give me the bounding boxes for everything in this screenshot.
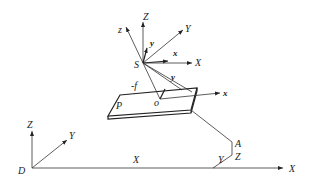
label-Y-sensor: Y [185,23,192,34]
label-D: D [17,165,26,176]
label-S: S [134,59,139,70]
label-Z-ground: Z [27,119,33,130]
label-X-sensor: X [194,57,202,68]
ground-Y-axis [32,140,67,168]
ground-point-projection: A Z [191,110,242,168]
label-P: P [115,100,122,111]
label-Y-offset: Y [218,154,225,165]
label-Z-sensor: Z [143,11,149,22]
label-y-lower: y [170,72,176,82]
projection-ray [143,63,192,92]
label-X-offset: X [132,154,140,165]
plane-y-tick [160,89,165,99]
diagram-canvas: Z z Y y x X S y -f P o x A Z Z Y D X Y X [0,0,309,190]
diagram-svg: Z z Y y x X S y -f P o x A Z Z Y D X Y X [0,0,309,190]
ground-frame: Z Y D X Y X [17,119,296,176]
label-A: A [234,138,242,149]
plane-x-axis [160,93,220,99]
label-z-sensor: z [117,24,122,35]
label-Y-ground: Y [69,130,76,141]
image-plane: P o x [108,88,228,119]
projection-path-to-A [191,110,232,168]
label-x-plane: x [222,88,228,98]
label-x-upper: x [172,48,178,58]
sensor-y-small-axis [143,48,147,63]
label-minus-f: -f [131,80,138,91]
sensor-z-axis [126,27,143,63]
sensor-Y-axis [143,30,183,63]
label-y-upper: y [149,38,155,48]
label-X-ground: X [288,163,296,174]
label-o: o [154,97,159,108]
sensor-y-lower-axis [143,63,182,90]
label-Z-offset: Z [235,151,241,162]
sensor-frame: Z z Y y x X S y -f [117,11,202,99]
